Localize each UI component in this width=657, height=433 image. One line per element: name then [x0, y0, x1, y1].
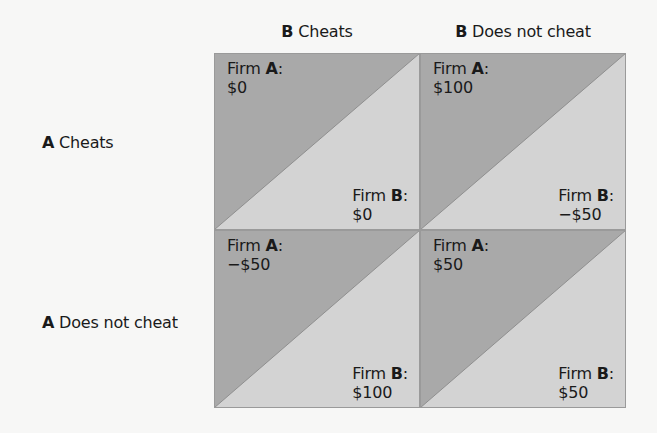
- firm-label: Firm: [227, 59, 261, 78]
- col-header-strategy: Cheats: [298, 22, 352, 41]
- row-header-strategy: Cheats: [59, 133, 113, 152]
- col-header-b-does-not-cheat: B Does not cheat: [420, 22, 626, 41]
- firm-a-payoff: Firm A: −$50: [227, 236, 283, 274]
- cell-a-does-not-cheat-b-does-not-cheat: Firm A: $50 Firm B: $50: [420, 230, 626, 408]
- row-header-player: A: [42, 313, 54, 332]
- col-header-player: B: [281, 22, 293, 41]
- firm-label: Firm: [433, 59, 467, 78]
- firm-b-payoff: Firm B: $100: [352, 364, 408, 402]
- cell-a-cheats-b-does-not-cheat: Firm A: $100 Firm B: −$50: [420, 53, 626, 230]
- col-header-player: B: [455, 22, 467, 41]
- payoff-matrix: Firm A: $0 Firm B: $0 Firm A: $100 Firm …: [214, 53, 626, 408]
- row-header-a-cheats: A Cheats: [42, 133, 113, 152]
- col-header-b-cheats: B Cheats: [214, 22, 420, 41]
- firm-b-letter: B: [391, 186, 403, 205]
- firm-b-value: $100: [352, 383, 392, 402]
- firm-a-value: −$50: [227, 255, 270, 274]
- firm-b-letter: B: [597, 186, 609, 205]
- firm-a-value: $0: [227, 78, 247, 97]
- firm-a-payoff: Firm A: $100: [433, 59, 489, 97]
- firm-a-letter: A: [471, 236, 483, 255]
- row-header-a-does-not-cheat: A Does not cheat: [42, 313, 178, 332]
- firm-b-value: $0: [352, 205, 372, 224]
- firm-b-payoff: Firm B: −$50: [558, 186, 614, 224]
- firm-label: Firm: [352, 186, 386, 205]
- firm-b-value: −$50: [558, 205, 601, 224]
- firm-a-letter: A: [265, 59, 277, 78]
- firm-b-payoff: Firm B: $0: [352, 186, 408, 224]
- firm-label: Firm: [558, 364, 592, 383]
- cell-a-cheats-b-cheats: Firm A: $0 Firm B: $0: [214, 53, 420, 230]
- firm-label: Firm: [227, 236, 261, 255]
- row-header-strategy: Does not cheat: [59, 313, 178, 332]
- firm-b-value: $50: [558, 383, 588, 402]
- firm-a-payoff: Firm A: $50: [433, 236, 489, 274]
- col-header-strategy: Does not cheat: [472, 22, 591, 41]
- cell-a-does-not-cheat-b-cheats: Firm A: −$50 Firm B: $100: [214, 230, 420, 408]
- firm-b-letter: B: [391, 364, 403, 383]
- firm-b-letter: B: [597, 364, 609, 383]
- firm-b-payoff: Firm B: $50: [558, 364, 614, 402]
- firm-label: Firm: [433, 236, 467, 255]
- row-header-player: A: [42, 133, 54, 152]
- firm-a-value: $100: [433, 78, 473, 97]
- firm-a-value: $50: [433, 255, 463, 274]
- firm-a-letter: A: [265, 236, 277, 255]
- firm-label: Firm: [558, 186, 592, 205]
- firm-label: Firm: [352, 364, 386, 383]
- firm-a-payoff: Firm A: $0: [227, 59, 283, 97]
- firm-a-letter: A: [471, 59, 483, 78]
